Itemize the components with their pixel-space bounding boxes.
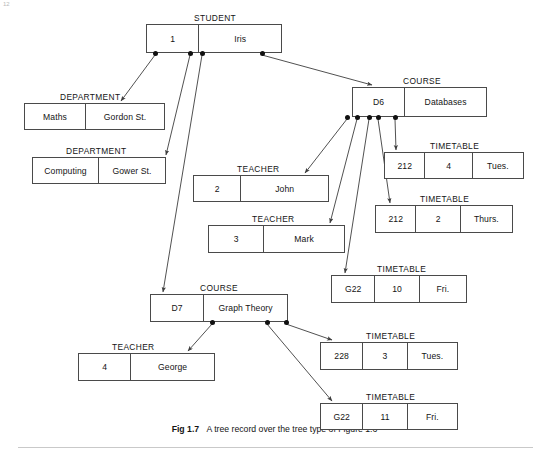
- field-timetable-228-3-tues-0: 228: [321, 343, 362, 369]
- pointer-dot-student-1-2: [200, 51, 205, 56]
- record-timetable-g22-10-fri[interactable]: G2210Fri.: [331, 275, 467, 303]
- course-d7-to-timetable-228-3: [286, 324, 332, 340]
- field-teacher-john-0: 2: [194, 176, 240, 201]
- pointer-dot-course-d7-0: [210, 320, 215, 325]
- record-timetable-g22-11-fri[interactable]: G2211Fri.: [320, 403, 458, 430]
- field-timetable-g22-10-fri-0: G22: [332, 276, 374, 302]
- course-d6-to-teacher-mark: [330, 119, 357, 223]
- field-teacher-john-1: John: [240, 176, 328, 201]
- field-teacher-mark-1: Mark: [263, 226, 344, 252]
- record-type-label-teacher-john: TEACHER: [237, 164, 279, 174]
- record-timetable-212-2-thurs[interactable]: 2122Thurs.: [375, 205, 513, 233]
- field-teacher-george-0: 4: [79, 354, 130, 380]
- record-course-d7[interactable]: D7Graph Theory: [150, 294, 288, 322]
- field-timetable-g22-11-fri-0: G22: [321, 404, 362, 429]
- figure-caption: Fig 1.7 A tree record over the tree type…: [0, 424, 549, 434]
- record-type-label-timetable-212-4-tues: TIMETABLE: [430, 141, 479, 151]
- record-type-label-course-d7: COURSE: [200, 283, 238, 293]
- field-timetable-212-4-tues-0: 212: [385, 153, 424, 178]
- field-timetable-212-2-thurs-0: 212: [376, 206, 415, 232]
- record-course-d6[interactable]: D6Databases: [352, 87, 487, 117]
- pointer-dot-course-d7-1: [265, 320, 270, 325]
- pointer-dot-course-d6-3: [376, 115, 381, 120]
- record-teacher-mark[interactable]: 3Mark: [208, 225, 345, 253]
- course-d6-to-timetable-g22-10: [345, 119, 369, 273]
- record-type-label-teacher-mark: TEACHER: [252, 214, 294, 224]
- record-timetable-228-3-tues[interactable]: 2283Tues.: [320, 342, 458, 370]
- pointer-dot-student-1-0: [153, 51, 158, 56]
- field-student-1-0: 1: [147, 25, 198, 52]
- record-type-label-student-1: STUDENT: [194, 13, 236, 23]
- field-timetable-g22-10-fri-2: Fri.: [419, 276, 466, 302]
- student-to-department-maths: [121, 55, 155, 101]
- pointer-dot-student-1-3: [260, 51, 265, 56]
- field-course-d7-1: Graph Theory: [203, 295, 287, 321]
- record-type-label-timetable-212-2-thurs: TIMETABLE: [420, 194, 469, 204]
- student-to-department-computing: [166, 55, 190, 155]
- field-timetable-g22-11-fri-2: Fri.: [407, 404, 457, 429]
- record-type-label-timetable-g22-11-fri: TIMETABLE: [366, 392, 415, 402]
- field-timetable-g22-10-fri-1: 10: [374, 276, 418, 302]
- figure-caption-prefix: Fig 1.7: [172, 424, 200, 434]
- record-teacher-george[interactable]: 4George: [78, 353, 215, 381]
- field-course-d6-1: Databases: [404, 88, 486, 116]
- record-student-1[interactable]: 1Iris: [146, 24, 282, 53]
- pointer-dot-student-1-1: [188, 51, 193, 56]
- record-type-label-timetable-g22-10-fri: TIMETABLE: [377, 264, 426, 274]
- field-teacher-george-1: George: [130, 354, 214, 380]
- pointer-dot-course-d6-0: [345, 115, 350, 120]
- record-timetable-212-4-tues[interactable]: 2124Tues.: [384, 152, 524, 179]
- pointer-dot-course-d6-4: [393, 115, 398, 120]
- field-department-computing-1: Gower St.: [98, 158, 165, 183]
- field-course-d7-0: D7: [151, 295, 203, 321]
- page-number: 12: [3, 1, 10, 7]
- record-department-computing[interactable]: ComputingGower St.: [32, 157, 166, 184]
- field-timetable-212-2-thurs-2: Thurs.: [460, 206, 512, 232]
- field-timetable-g22-11-fri-1: 11: [362, 404, 406, 429]
- field-department-maths-0: Maths: [25, 104, 85, 129]
- field-teacher-mark-0: 3: [209, 226, 263, 252]
- record-type-label-department-computing: DEPARTMENT: [66, 146, 126, 156]
- course-d6-to-timetable-212-4: [395, 119, 396, 150]
- record-department-maths[interactable]: MathsGordon St.: [24, 103, 165, 130]
- pointer-dot-course-d6-1: [355, 115, 360, 120]
- student-to-course-d6: [262, 55, 372, 85]
- footer-rule-top: [18, 447, 533, 448]
- student-to-course-d7: [163, 55, 202, 292]
- record-type-label-teacher-george: TEACHER: [112, 342, 154, 352]
- field-course-d6-0: D6: [353, 88, 404, 116]
- pointer-dot-course-d7-2: [284, 320, 289, 325]
- course-d7-to-teacher-george: [188, 324, 212, 351]
- figure-tree-record: 12 STUDENT1IrisDEPARTMENTMathsGordon St.…: [0, 0, 549, 467]
- record-type-label-course-d6: COURSE: [403, 76, 441, 86]
- course-d6-to-teacher-john: [305, 119, 347, 173]
- field-timetable-212-4-tues-2: Tues.: [472, 153, 523, 178]
- record-type-label-timetable-228-3-tues: TIMETABLE: [366, 331, 415, 341]
- field-timetable-228-3-tues-2: Tues.: [407, 343, 457, 369]
- field-department-computing-0: Computing: [33, 158, 98, 183]
- record-type-label-department-maths: DEPARTMENT: [60, 92, 120, 102]
- field-timetable-228-3-tues-1: 3: [362, 343, 406, 369]
- field-timetable-212-2-thurs-1: 2: [415, 206, 459, 232]
- field-timetable-212-4-tues-1: 4: [424, 153, 471, 178]
- field-department-maths-1: Gordon St.: [85, 104, 164, 129]
- pointer-dot-course-d6-2: [367, 115, 372, 120]
- field-student-1-1: Iris: [198, 25, 281, 52]
- record-teacher-john[interactable]: 2John: [193, 175, 329, 202]
